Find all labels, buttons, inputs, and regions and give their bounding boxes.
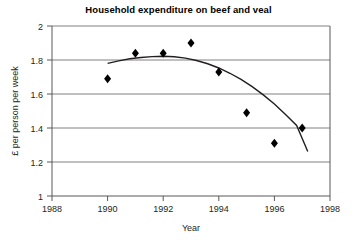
data-point-marker[interactable] <box>104 74 111 83</box>
x-tick-label: 1990 <box>98 204 118 214</box>
y-tick-label: 1.4 <box>30 124 43 134</box>
x-tick-label: 1992 <box>153 204 173 214</box>
x-axis-ticks <box>52 196 330 201</box>
x-tick-label: 1996 <box>264 204 284 214</box>
chart-plot-area: 2 1.8 1.6 1.4 1.2 1 1988 1990 1992 1994 … <box>0 0 357 242</box>
x-tick-label: 1988 <box>42 204 62 214</box>
data-point-marker[interactable] <box>132 49 139 58</box>
data-point-marker[interactable] <box>187 39 194 48</box>
data-points <box>104 39 306 148</box>
data-point-marker[interactable] <box>271 139 278 148</box>
x-tick-label: 1998 <box>320 204 340 214</box>
x-axis-title: Year <box>182 223 200 233</box>
y-axis-ticks <box>47 26 52 196</box>
x-tick-label: 1994 <box>209 204 229 214</box>
y-tick-label: 1.2 <box>30 158 43 168</box>
y-tick-label: 1.6 <box>30 90 43 100</box>
trend-curve <box>108 56 308 151</box>
y-axis-title: £ per person per week <box>10 66 20 156</box>
chart-container: Household expenditure on beef and veal <box>0 0 357 242</box>
y-tick-label: 2 <box>38 22 43 32</box>
y-tick-label: 1.8 <box>30 56 43 66</box>
data-point-marker[interactable] <box>243 108 250 117</box>
x-axis-tick-labels: 1988 1990 1992 1994 1996 1998 <box>42 204 340 214</box>
y-axis-tick-labels: 2 1.8 1.6 1.4 1.2 1 <box>30 22 43 202</box>
axis-lines <box>52 26 330 196</box>
y-tick-label: 1 <box>38 192 43 202</box>
